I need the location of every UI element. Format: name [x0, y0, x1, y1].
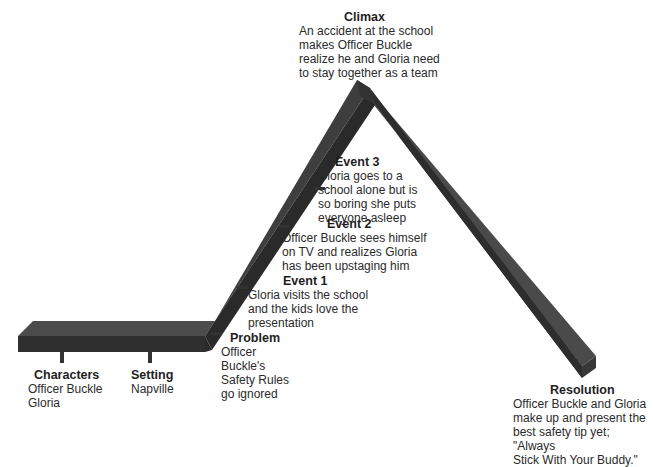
event1-title: Event 1 — [248, 274, 388, 288]
resolution-label: Resolution Officer Buckle and Gloria mak… — [513, 383, 653, 467]
peg-characters — [60, 352, 64, 363]
event3-text: Gloria goes to a school alone but is so … — [318, 169, 438, 225]
climax-title: Climax — [299, 10, 459, 24]
event2-label: Event 2 Officer Buckle sees himself on T… — [282, 217, 442, 273]
resolution-text: Officer Buckle and Gloria make up and pr… — [513, 397, 653, 467]
problem-title: Problem — [221, 331, 311, 345]
event3-title: Event 3 — [318, 155, 438, 169]
problem-text: Officer Buckle's Safety Rules go ignored — [221, 345, 311, 401]
resolution-title: Resolution — [513, 383, 653, 397]
characters-title: Characters — [20, 368, 110, 382]
event1-label: Event 1 Gloria visits the school and the… — [248, 274, 388, 330]
setting-label: Setting Napville — [131, 368, 201, 396]
peg-problem — [211, 332, 221, 335]
event2-text: Officer Buckle sees himself on TV and re… — [282, 231, 442, 273]
climax-text: An accident at the school makes Officer … — [299, 24, 459, 80]
setting-text: Napville — [131, 382, 201, 396]
exposition-beam — [18, 321, 215, 352]
event1-text: Gloria visits the school and the kids lo… — [248, 288, 388, 330]
peg-setting — [148, 352, 152, 363]
characters-label: Characters Officer Buckle Gloria — [20, 368, 110, 410]
characters-text: Officer Buckle Gloria — [20, 382, 110, 410]
event3-label: Event 3 Gloria goes to a school alone bu… — [318, 155, 438, 225]
climax-label: Climax An accident at the school makes O… — [299, 10, 459, 80]
setting-title: Setting — [131, 368, 201, 382]
peg-event1 — [237, 286, 247, 289]
problem-label: Problem Officer Buckle's Safety Rules go… — [221, 331, 311, 401]
